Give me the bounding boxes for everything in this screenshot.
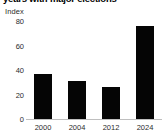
chart-title: years with major elections (3, 0, 117, 4)
y-tick-label: 20 (2, 90, 24, 99)
x-tick-label: 2004 (60, 123, 94, 132)
bar (68, 81, 86, 119)
bar (136, 26, 154, 119)
x-axis-baseline (26, 119, 162, 120)
y-axis-unit-label: Index (5, 7, 24, 16)
y-tick-label: 60 (2, 41, 24, 50)
y-axis-ticks: 020406080 (0, 21, 24, 119)
bar (34, 74, 52, 119)
x-tick-label: 2012 (94, 123, 128, 132)
x-tick-label: 2000 (26, 123, 60, 132)
plot-area (26, 21, 162, 119)
bar (102, 87, 120, 119)
y-tick-label: 0 (2, 115, 24, 124)
y-tick-label: 80 (2, 17, 24, 26)
x-tick-label: 2024 (128, 123, 162, 132)
x-axis-ticks: 2000200420122024 (26, 123, 162, 135)
bar-chart: years with major elections Index 0204060… (0, 0, 165, 137)
y-tick-label: 40 (2, 66, 24, 75)
chart-title-clipped: years with major elections (0, 0, 165, 5)
